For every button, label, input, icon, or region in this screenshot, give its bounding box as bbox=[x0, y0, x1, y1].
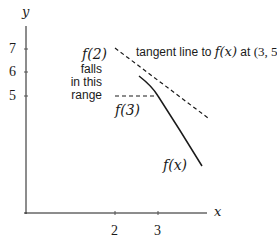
x-tick-label-2: 2 bbox=[111, 223, 118, 239]
y-tick-label-7: 7 bbox=[9, 41, 16, 57]
y-axis-label: y bbox=[22, 4, 29, 19]
f3-label: f(3) bbox=[115, 102, 140, 118]
function-curve bbox=[139, 76, 202, 166]
tangent-label-point: (3, 5) bbox=[254, 44, 277, 59]
x-tick-label-3: 3 bbox=[154, 223, 161, 239]
y-tick-label-6: 6 bbox=[9, 64, 16, 80]
tangent-label-fx: f(x) bbox=[215, 44, 237, 59]
tangent-label: tangent line to f(x) at (3, 5) bbox=[136, 44, 277, 60]
f2-label: f(2) bbox=[82, 46, 107, 62]
tangent-label-at: at bbox=[237, 45, 254, 59]
tangent-line-diagram bbox=[0, 0, 277, 245]
y-tick-label-5: 5 bbox=[9, 88, 16, 104]
x-axis-label: x bbox=[214, 204, 221, 219]
f2-note: falls in this range bbox=[71, 63, 102, 102]
f2-note-line3: range bbox=[71, 89, 102, 102]
curve-label: f(x) bbox=[163, 157, 187, 173]
tangent-label-prefix: tangent line to bbox=[136, 45, 215, 59]
